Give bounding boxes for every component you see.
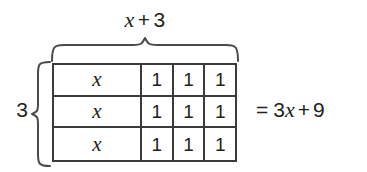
tile-unit: 1 [142,128,174,160]
tile-grid: x 1 1 1 x 1 1 1 x 1 1 1 [52,63,237,162]
tile-x: x [54,65,142,95]
top-label-operator: + [135,8,154,31]
tile-unit: 1 [205,65,235,95]
tile-unit: 1 [205,97,235,127]
equation-variable: x [285,97,295,122]
tile-x: x [54,128,142,160]
left-brace [30,60,52,168]
tile-unit: 1 [174,97,206,127]
top-brace [50,36,240,62]
tile-unit: 1 [174,65,206,95]
left-multiplier-label: 3 [12,99,28,121]
top-label-constant: 3 [153,8,165,31]
equation-constant: 9 [313,98,325,121]
tile-unit: 1 [174,128,206,160]
top-label-variable: x [124,7,134,32]
table-row: x 1 1 1 [54,65,235,97]
table-row: x 1 1 1 [54,97,235,129]
equals-sign: = [256,98,273,121]
table-row: x 1 1 1 [54,128,235,160]
tile-unit: 1 [205,128,235,160]
equation-operator: + [295,98,313,121]
figure-canvas: x+3 3 x 1 1 1 x 1 1 1 x 1 1 1 [0,0,367,172]
result-equation: =3x+9 [256,99,325,121]
top-dimension-label: x+3 [52,8,238,32]
tile-unit: 1 [142,65,174,95]
equation-coefficient: 3 [273,98,285,121]
tile-unit: 1 [142,97,174,127]
tile-x: x [54,97,142,127]
